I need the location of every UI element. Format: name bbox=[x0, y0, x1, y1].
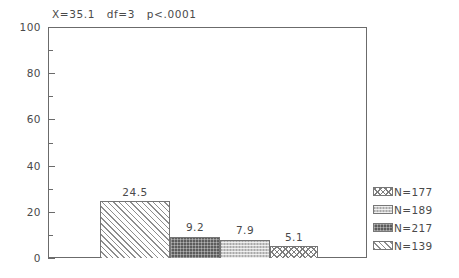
y-tick-label-60: 60 bbox=[27, 113, 41, 125]
bar-value-label-1: 24.5 bbox=[122, 186, 147, 198]
y-tick-label-0: 0 bbox=[34, 252, 41, 264]
legend-label-n217: N=217 bbox=[394, 222, 433, 234]
bar-4 bbox=[270, 246, 318, 258]
legend-item-n189: N=189 bbox=[373, 201, 459, 218]
y-axis: 100 80 60 40 20 0 bbox=[0, 0, 48, 278]
y-tick-label-80: 80 bbox=[27, 67, 41, 79]
legend-item-n217: N=217 bbox=[373, 219, 459, 236]
y-tick-label-40: 40 bbox=[27, 160, 41, 172]
bar-chart: X=35.1 df=3 p<.0001 100 80 60 40 20 0 24… bbox=[0, 0, 459, 278]
legend-swatch-icon-n217 bbox=[373, 223, 393, 232]
bar-value-label-4: 5.1 bbox=[285, 231, 303, 243]
y-tick-label-20: 20 bbox=[27, 206, 41, 218]
legend-label-n177: N=177 bbox=[394, 186, 433, 198]
bar-value-label-3: 7.9 bbox=[236, 224, 254, 236]
bar-3 bbox=[220, 240, 270, 258]
bar-1 bbox=[100, 201, 170, 258]
legend-label-n139: N=139 bbox=[394, 240, 433, 252]
legend-item-n177: N=177 bbox=[373, 183, 459, 200]
legend-swatch-icon-n139 bbox=[373, 241, 393, 250]
legend-swatch-icon-n189 bbox=[373, 205, 393, 214]
legend-swatch-icon-n177 bbox=[373, 187, 393, 196]
chart-title-statistics: X=35.1 df=3 p<.0001 bbox=[52, 8, 197, 20]
bars-layer: 24.5 9.2 7.9 5.1 bbox=[48, 27, 367, 258]
bar-value-label-2: 9.2 bbox=[186, 221, 204, 233]
y-tick-label-100: 100 bbox=[19, 21, 41, 33]
legend-item-n139: N=139 bbox=[373, 237, 459, 254]
bar-2 bbox=[170, 237, 220, 258]
legend-label-n189: N=189 bbox=[394, 204, 433, 216]
legend: N=177 N=189 N=217 N=139 bbox=[373, 183, 459, 255]
